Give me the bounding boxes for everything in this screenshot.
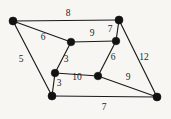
edge-top-left-to-top-right xyxy=(13,20,119,21)
top-left-vertex xyxy=(9,17,17,25)
edge-weight-label-ag: 5 xyxy=(19,55,24,65)
edge-weight-label-ab: 8 xyxy=(66,9,71,19)
bottom-left-vertex xyxy=(48,92,56,100)
bottom-right-vertex xyxy=(153,93,161,101)
edge-weight-label-ac: 6 xyxy=(41,33,46,43)
edge-weight-label-df: 6 xyxy=(111,53,116,63)
edges-group xyxy=(13,20,157,97)
edge-weight-label-bh: 12 xyxy=(139,53,149,63)
weighted-graph-figure: 86597123610397 xyxy=(0,0,171,119)
edge-weight-label-fh: 9 xyxy=(126,73,131,83)
edge-weight-label-gh: 7 xyxy=(102,103,107,113)
edge-bottom-left-to-bottom-right xyxy=(52,96,157,97)
inner-bottom-left-vertex xyxy=(51,69,59,77)
edge-inner-top-left-to-inner-top-right xyxy=(71,41,116,42)
edge-weight-label-bd: 7 xyxy=(108,25,113,35)
inner-top-left-vertex xyxy=(67,38,75,46)
inner-top-right-vertex xyxy=(112,37,120,45)
edge-weight-label-ce: 3 xyxy=(64,55,69,65)
edge-weight-label-eg: 3 xyxy=(57,79,62,89)
inner-bottom-right-vertex xyxy=(94,72,102,80)
edge-weight-label-ef: 10 xyxy=(72,73,82,83)
top-right-vertex xyxy=(115,16,123,24)
edge-weight-label-cd: 9 xyxy=(90,29,95,39)
